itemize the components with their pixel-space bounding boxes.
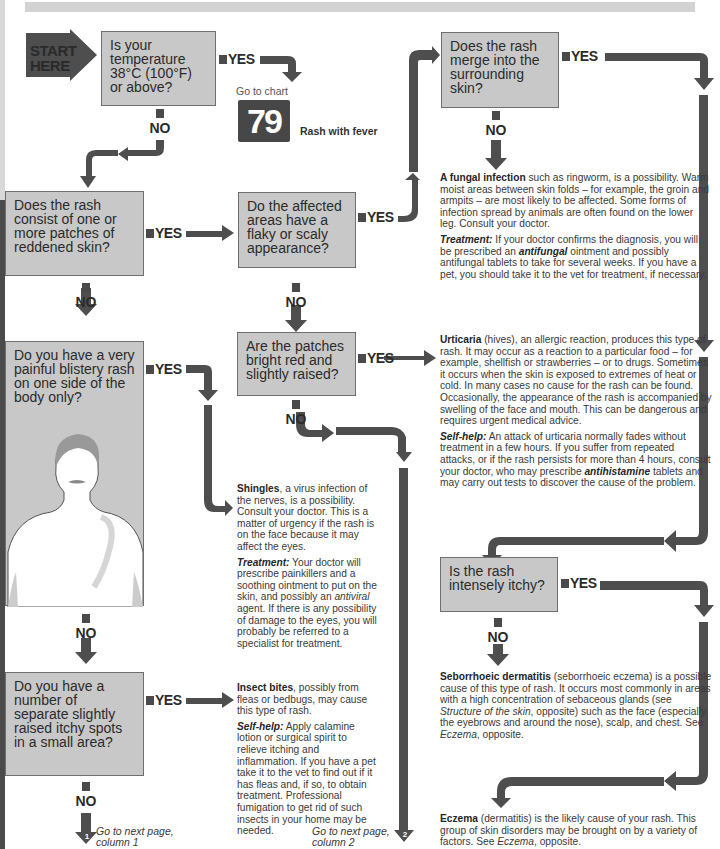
yes-label: YES <box>146 226 182 240</box>
man-torso-illustration <box>6 422 143 607</box>
question-itchy-spots[interactable]: Do you have a number of separate slightl… <box>5 672 144 776</box>
question-reddened-patches[interactable]: Does the rash consist of one or more pat… <box>5 191 144 276</box>
no-label: NO <box>281 283 311 310</box>
yes-label: YES <box>358 210 394 224</box>
no-label: NO <box>71 283 101 310</box>
question-text: Is your temperature 38°C (100°F) or abov… <box>110 37 192 95</box>
column-2-marker: 2 <box>400 830 410 840</box>
no-label: NO <box>71 782 101 809</box>
next-page-column-1-link[interactable]: Go to next page, column 1 <box>96 826 186 848</box>
question-merge-skin[interactable]: Does the rash merge into the surrounding… <box>441 32 559 108</box>
column-1-marker: 1 <box>82 832 92 842</box>
no-label: NO <box>145 109 175 136</box>
result-insect-bites: Insect bites, possibly from fleas or bed… <box>237 682 377 841</box>
question-text: Do you have a very painful blistery rash… <box>14 347 135 405</box>
question-text: Do the affected areas have a flaky or sc… <box>247 198 342 256</box>
question-flaky-scaly[interactable]: Do the affected areas have a flaky or sc… <box>238 192 356 268</box>
result-fungal-infection: A fungal infection such as ringworm, is … <box>440 172 710 284</box>
yes-label: YES <box>358 351 394 365</box>
yes-label: YES <box>146 693 182 707</box>
question-text: Do you have a number of separate slightl… <box>14 678 122 750</box>
next-page-column-2-link[interactable]: Go to next page, column 2 <box>312 826 398 848</box>
result-eczema: Eczema (dermatitis) is the likely cause … <box>440 813 712 849</box>
question-text: Are the patches bright red and slightly … <box>246 338 344 382</box>
no-label: NO <box>281 400 311 427</box>
result-shingles: Shingles, a virus infection of the nerve… <box>237 483 377 653</box>
chart-title[interactable]: Rash with fever <box>300 125 378 137</box>
chart-79-badge[interactable]: 79 <box>238 100 290 142</box>
question-text: Does the rash consist of one or more pat… <box>14 197 117 255</box>
question-text: Is the rash intensely itchy? <box>449 563 545 593</box>
question-bright-red-raised[interactable]: Are the patches bright red and slightly … <box>237 332 356 396</box>
goto-chart-label: Go to chart <box>236 85 288 97</box>
result-urticaria: Urticaria (hives), an allergic reaction,… <box>440 334 712 493</box>
result-seborrhoeic-dermatitis: Seborrhoeic dermatitis (seborrhoeic ecze… <box>440 671 712 745</box>
no-label: NO <box>71 614 101 641</box>
no-label: NO <box>483 618 513 645</box>
question-blistery-rash[interactable]: Do you have a very painful blistery rash… <box>5 341 144 606</box>
yes-label: YES <box>146 362 182 376</box>
start-here-label: START HERE <box>30 43 76 73</box>
no-label: NO <box>481 111 511 138</box>
question-intensely-itchy[interactable]: Is the rash intensely itchy? <box>440 557 558 612</box>
yes-label: YES <box>561 576 597 590</box>
here-word: HERE <box>30 58 76 73</box>
yes-label: YES <box>219 52 255 66</box>
yes-label: YES <box>562 49 598 63</box>
question-text: Does the rash merge into the surrounding… <box>450 38 540 96</box>
start-word: START <box>30 43 76 58</box>
question-temperature[interactable]: Is your temperature 38°C (100°F) or abov… <box>101 31 216 106</box>
